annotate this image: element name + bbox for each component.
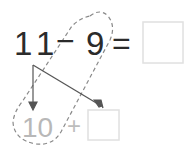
arrow-diagonal-icon	[94, 100, 103, 108]
equals-sign: =	[112, 25, 131, 61]
answer-box[interactable]	[143, 22, 183, 63]
arrow-down-icon	[29, 102, 37, 110]
tens-value: 10	[22, 112, 53, 143]
minuend: 11	[14, 25, 60, 62]
subtrahend: 9	[86, 25, 104, 62]
split-arrows	[29, 65, 103, 110]
plus-sign: +	[67, 112, 81, 139]
ones-box[interactable]	[88, 110, 119, 140]
math-diagram: 11 − 9 = 10 +	[0, 0, 190, 149]
minus-sign: −	[56, 23, 75, 59]
